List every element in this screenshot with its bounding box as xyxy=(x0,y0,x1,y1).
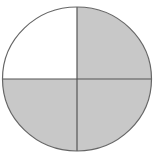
fraction-circle-diagram xyxy=(0,0,155,154)
circle-figure xyxy=(0,0,155,154)
quadrant-top-right xyxy=(77,7,152,79)
quadrant-top-left xyxy=(3,7,78,79)
quadrant-bottom-left xyxy=(3,79,78,151)
quadrant-bottom-right xyxy=(77,79,152,151)
